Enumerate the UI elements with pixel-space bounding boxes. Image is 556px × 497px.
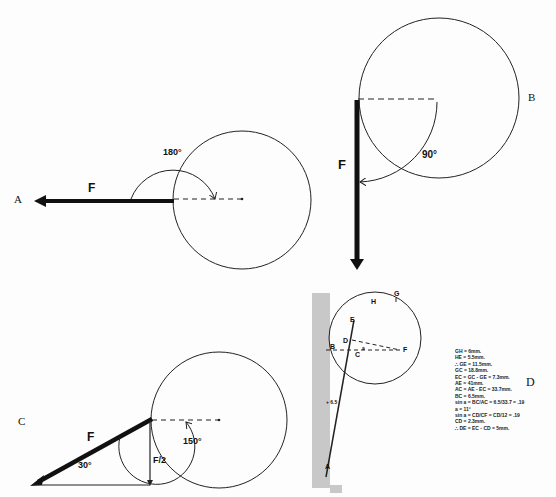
panel-a-angle-label: 180°	[163, 147, 182, 157]
panel-b-angle-label: 90°	[422, 149, 437, 160]
panel-b-force-label: F	[338, 157, 346, 172]
panel-b	[350, 18, 519, 270]
point-b-label: B	[330, 343, 335, 350]
point-h-label: H	[371, 298, 376, 305]
panel-c-triangle-angle-label: 30°	[78, 460, 92, 470]
diagram-canvas: A F 180° B F 90° C F F/2 150° 30° D A B …	[0, 0, 556, 497]
panel-d-label: D	[526, 375, 535, 390]
point-d-label: D	[343, 337, 348, 344]
point-c-label: C	[355, 351, 360, 358]
point-e-label: E	[350, 316, 355, 323]
calc-line: sin a = BC/AC = 6.5/33.7 = .19	[455, 399, 524, 405]
panel-c	[30, 352, 287, 488]
panel-c-component-label: F/2	[153, 455, 166, 465]
angle-a-symbol: a	[362, 345, 365, 351]
panel-a-label: A	[14, 193, 22, 205]
side-marker: + 6.5	[326, 399, 337, 405]
panel-c-angle-label: 150°	[183, 436, 202, 446]
point-f-label: F	[403, 346, 407, 353]
point-g-label: G	[394, 290, 399, 297]
panel-c-force-label: F	[87, 430, 94, 444]
point-a-label: A	[325, 463, 330, 470]
calculation-notes: GH = 6mm. HE = 5.5mm. ∴ GE = 11.5mm. GC …	[455, 348, 524, 431]
panel-c-label: C	[18, 415, 25, 427]
calc-line: ∴ DE = EC - CD = 5mm.	[455, 425, 524, 431]
panel-a-force-label: F	[88, 181, 95, 195]
panel-b-label: B	[528, 91, 535, 103]
